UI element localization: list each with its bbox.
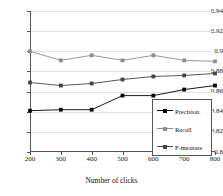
data-point [151,75,155,79]
data-point [213,84,217,88]
data-point [182,88,186,92]
x-tick-label: 500 [110,155,136,163]
x-tick-label: 600 [140,155,166,163]
data-point [121,58,125,62]
legend-label-f-measure: F-measure [175,144,202,151]
x-tick-mark [215,152,216,155]
x-tick-mark [30,152,31,155]
x-tick-label: 300 [48,155,74,163]
x-tick-mark [123,152,124,155]
x-tick-label: 800 [202,155,223,163]
legend-marker-precision [157,107,173,115]
data-point [151,94,155,98]
data-point [213,59,217,63]
data-point [59,108,63,112]
legend-marker-f-measure [157,143,173,151]
data-point [182,58,186,62]
data-point [90,53,94,57]
line-chart: 0.80.820.840.860.880.90.920.94 200300400… [0,0,223,196]
legend-item-precision[interactable]: Precision [157,105,213,117]
data-point [121,94,125,98]
x-tick-mark [61,152,62,155]
x-tick-label: 200 [17,155,43,163]
legend-label-precision: Precision [175,108,199,115]
data-point [28,81,32,85]
data-point [182,74,186,78]
legend-marker-recall [157,125,173,133]
legend-item-recall[interactable]: Recall [157,123,213,135]
series-layer [0,0,223,196]
data-point [90,108,94,112]
data-point [59,58,63,62]
data-point [213,72,217,76]
data-point [59,84,63,88]
data-point [90,82,94,86]
x-tick-label: 400 [79,155,105,163]
x-tick-label: 700 [171,155,197,163]
x-tick-mark [92,152,93,155]
x-axis-title: Number of clicks [0,176,223,185]
chart-legend: Precision Recall F-measure [152,99,212,156]
data-point [121,78,125,82]
data-point [28,109,32,113]
data-point [151,53,155,57]
data-point [28,49,32,53]
legend-item-f-measure[interactable]: F-measure [157,141,213,153]
legend-label-recall: Recall [175,126,192,133]
